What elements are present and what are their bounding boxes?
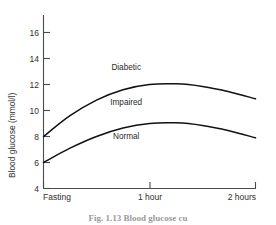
- y-tick-label: 12: [30, 80, 40, 90]
- zone-label-normal: Normal: [113, 132, 140, 141]
- y-tick-label: 4: [34, 184, 39, 194]
- figure-caption: Fig. 1.13 Blood glucose cu: [0, 212, 276, 225]
- x-tick-label-one-hour: 1 hour: [138, 192, 162, 202]
- y-tick-label: 16: [30, 28, 40, 38]
- zone-label-impaired: Impaired: [110, 98, 142, 107]
- zone-label-diabetic: Diabetic: [111, 63, 141, 72]
- normal-upper-limit-curve: [44, 123, 256, 163]
- y-axis-tick-labels: 16 14 12 10 8 6 4: [30, 28, 40, 194]
- y-axis-ticks: [44, 33, 51, 189]
- y-tick-label: 10: [30, 106, 40, 116]
- blood-glucose-chart: Blood glucose (mmol/l) 16 14 12 10 8 6 4: [0, 0, 276, 225]
- x-tick-label-two-hours: 2 hours: [228, 192, 256, 202]
- y-tick-label: 8: [34, 132, 39, 142]
- figure-container: Blood glucose (mmol/l) 16 14 12 10 8 6 4: [0, 0, 276, 225]
- y-tick-label: 6: [34, 158, 39, 168]
- diabetic-threshold-curve: [44, 84, 256, 137]
- x-axis-tick-labels: Fasting 1 hour 2 hours: [43, 192, 256, 202]
- y-tick-label: 14: [30, 54, 40, 64]
- x-axis-ticks: [44, 182, 256, 189]
- y-axis-title: Blood glucose (mmol/l): [7, 93, 17, 178]
- x-tick-label-fasting: Fasting: [43, 192, 71, 202]
